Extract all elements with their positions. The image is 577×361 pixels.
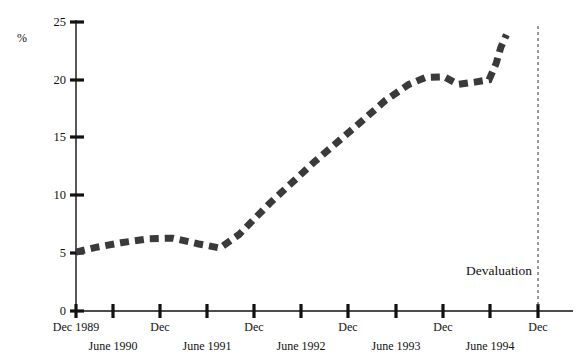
y-tick-label-0: 0: [60, 304, 66, 318]
x-axis-tick-labels-primary: Dec 1989 Dec Dec Dec Dec Dec: [53, 320, 548, 334]
y-tick-label-10: 10: [54, 188, 67, 202]
x-tick-label-dec-1990: Dec: [150, 320, 169, 334]
x-tick-label-dec-1993: Dec: [433, 320, 452, 334]
y-axis-tick-labels: 25 20 15 10 5 0: [54, 15, 67, 318]
x-tick-label-june-1990: June 1990: [89, 339, 138, 353]
x-tick-label-june-1993: June 1993: [372, 339, 421, 353]
y-tick-label-5: 5: [60, 246, 66, 260]
y-axis-label: %: [17, 31, 27, 45]
y-tick-label-20: 20: [54, 73, 67, 87]
x-tick-label-june-1991: June 1991: [183, 339, 232, 353]
x-axis-tick-labels-secondary: June 1990 June 1991 June 1992 June 1993 …: [89, 339, 515, 353]
devaluation-annotation-label: Devaluation: [466, 263, 532, 278]
x-tick-label-june-1994: June 1994: [466, 339, 515, 353]
x-tick-label-dec-1994: Dec: [528, 320, 547, 334]
y-axis-ticks: [70, 22, 84, 311]
y-tick-label-25: 25: [54, 15, 67, 29]
y-tick-label-15: 15: [54, 130, 67, 144]
chart-container: 25 20 15 10 5 0 % Dec 1989 Dec De: [0, 0, 577, 361]
x-tick-label-june-1992: June 1992: [277, 339, 326, 353]
data-series-line: [76, 35, 506, 252]
line-chart: 25 20 15 10 5 0 % Dec 1989 Dec De: [0, 0, 577, 361]
x-tick-label-dec-1991: Dec: [244, 320, 263, 334]
x-tick-label-dec-1989: Dec 1989: [53, 320, 99, 334]
x-tick-label-dec-1992: Dec: [338, 320, 357, 334]
